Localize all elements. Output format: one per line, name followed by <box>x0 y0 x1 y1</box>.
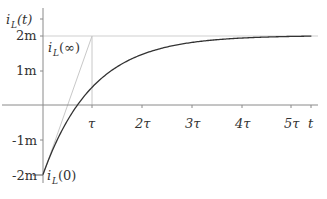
y-tick-label-1m: 1m <box>16 63 37 78</box>
annotation-final-value-sub: L <box>52 48 59 58</box>
x-tick-label-4tau: 4τ <box>234 116 251 131</box>
y-tick-label-neg2m: -2m <box>12 168 37 183</box>
y-tick-label-2m: 2m <box>16 28 37 43</box>
annotation-final-value: i <box>48 40 52 55</box>
y-tick-label-neg1m: -1m <box>12 133 37 148</box>
annotation-final-value-tail: (∞) <box>59 40 80 55</box>
annotation-initial-value-tail: (0) <box>58 168 76 183</box>
x-tick-label-3tau: 3τ <box>185 116 201 131</box>
annotation-initial-value: i <box>47 168 51 183</box>
x-tick-label-2tau: 2τ <box>134 116 151 131</box>
y-axis-label-tail: (t) <box>17 12 32 27</box>
chart: i L (t) 2m 1m -1m -2m τ 2τ 3τ 4τ 5τ t i … <box>0 0 327 199</box>
annotation-initial-value-sub: L <box>51 176 58 186</box>
x-axis-label: t <box>308 116 314 131</box>
x-tick-label-5tau: 5τ <box>284 116 300 131</box>
y-axis-label: i <box>6 12 10 27</box>
x-tick-label-tau: τ <box>88 116 96 131</box>
